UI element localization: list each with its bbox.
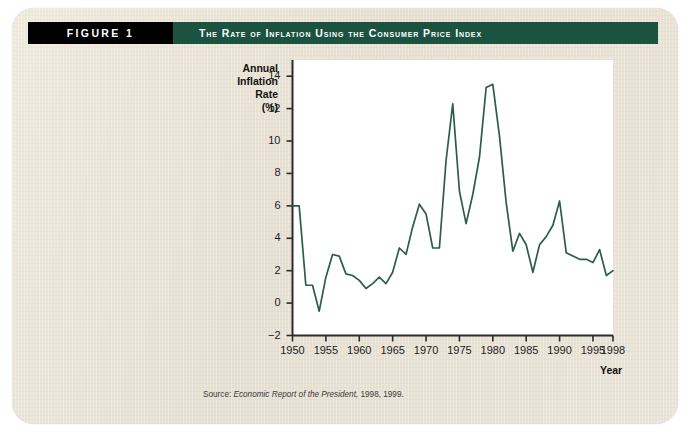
source-years: 1998, 1999. [360, 390, 403, 399]
axis-ticks-group [287, 76, 614, 341]
y-tick-label: 2 [255, 264, 281, 276]
y-tick-label: 6 [255, 199, 281, 211]
y-tick-label: 10 [255, 134, 281, 146]
inflation-chart: Annual Inflation Rate (%) Year −20246810… [0, 0, 690, 437]
y-tick-label: 0 [255, 296, 281, 308]
plot-svg [0, 0, 690, 437]
y-tick-label: 12 [255, 102, 281, 114]
source-note: Source: Economic Report of the President… [203, 390, 404, 399]
inflation-data-line [293, 84, 614, 311]
figure-page: FIGURE 1 The Rate of Inflation Using the… [0, 0, 690, 437]
source-publication: Economic Report of the President, [234, 390, 359, 399]
y-tick-label: −2 [255, 329, 281, 341]
source-prefix: Source: [203, 390, 231, 399]
y-tick-label: 14 [255, 69, 281, 81]
x-tick-label: 1998 [593, 344, 633, 356]
y-tick-label: 4 [255, 231, 281, 243]
y-tick-label: 8 [255, 166, 281, 178]
